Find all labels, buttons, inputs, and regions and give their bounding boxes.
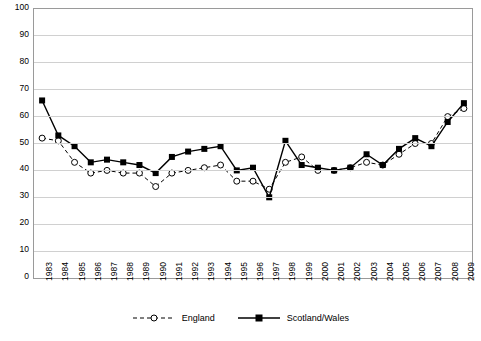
y-axis-tick-label: 30 [1,191,29,200]
x-axis-tick-label: 1995 [240,262,249,281]
y-axis-tick-label: 40 [1,164,29,173]
data-point-marker [364,151,370,157]
data-point-marker [55,132,61,138]
data-point-marker [136,170,142,176]
data-point-marker [201,146,207,152]
gridline [34,89,472,90]
y-axis-tick-label: 20 [1,218,29,227]
data-point-marker [120,159,126,165]
data-point-marker [250,178,256,184]
x-axis-tick-label: 2005 [402,262,411,281]
x-axis-tick-label: 1989 [142,262,151,281]
data-point-marker [39,97,45,103]
y-axis-tick-label: 80 [1,57,29,66]
x-axis-tick-label: 2002 [353,262,362,281]
data-point-marker [396,151,402,157]
x-axis-tick-label: 1996 [256,262,265,281]
plot-area [33,8,473,279]
x-axis-tick-label: 2009 [467,262,476,281]
x-axis-tick-label: 2000 [321,262,330,281]
x-axis-tick-label: 1992 [191,262,200,281]
y-axis-tick-label: 100 [1,3,29,12]
y-axis-tick-label: 50 [1,138,29,147]
x-axis-tick-label: 1987 [110,262,119,281]
data-point-marker [104,157,110,163]
x-axis-tick-label: 1997 [272,262,281,281]
x-axis-tick-label: 1991 [175,262,184,281]
x-axis-tick-label: 2007 [434,262,443,281]
data-point-marker [39,135,45,141]
gridline [34,224,472,225]
legend-label-england: England [182,313,215,323]
y-axis-tick-label: 60 [1,111,29,120]
x-axis-tick-label: 2004 [386,262,395,281]
y-axis-tick-label: 90 [1,30,29,39]
x-axis-tick-label: 1986 [94,262,103,281]
chart-legend: England Scotland/Wales [0,312,481,323]
data-point-marker [88,170,94,176]
data-point-marker [412,135,418,141]
data-point-marker [88,159,94,165]
data-point-marker [428,143,434,149]
legend-entry-scotland-wales: Scotland/Wales [237,312,349,323]
legend-entry-england: England [132,312,215,323]
legend-sample-england [132,313,176,323]
data-point-marker [72,143,78,149]
data-point-marker [153,184,159,190]
data-point-marker [396,146,402,152]
data-point-marker [364,159,370,165]
x-axis-tick-label: 2006 [418,262,427,281]
legend-sample-scotland-wales [237,313,281,323]
data-point-marker [120,170,126,176]
x-axis-tick-label: 2003 [370,262,379,281]
chart-container: 0102030405060708090100 19831984198519861… [0,0,481,341]
data-point-marker [169,170,175,176]
x-axis-tick-label: 2001 [337,262,346,281]
gridline [34,62,472,63]
gridline [34,116,472,117]
gridline [34,35,472,36]
x-axis-tick-label: 2008 [451,262,460,281]
data-point-marker [153,170,159,176]
x-axis-tick-label: 1993 [207,262,216,281]
data-point-marker [445,119,451,125]
x-axis-tick-label: 1985 [78,262,87,281]
data-point-marker [380,162,386,168]
x-axis-tick-label: 1994 [224,262,233,281]
x-axis-tick-label: 1983 [45,262,54,281]
data-point-marker [72,159,78,165]
y-axis-tick-label: 70 [1,84,29,93]
gridline [34,251,472,252]
data-point-marker [282,159,288,165]
y-axis-tick-label: 10 [1,245,29,254]
data-point-marker [299,162,305,168]
x-axis-tick-label: 1999 [305,262,314,281]
data-point-marker [299,154,305,160]
gridline [34,197,472,198]
x-axis-tick-label: 1988 [126,262,135,281]
data-point-marker [185,149,191,155]
data-point-marker [218,143,224,149]
x-axis-tick-label: 1984 [61,262,70,281]
gridline [34,170,472,171]
data-point-marker [218,162,224,168]
y-axis-tick-label: 0 [1,272,29,281]
data-point-marker [234,178,240,184]
data-point-marker [136,162,142,168]
gridline [34,143,472,144]
data-point-marker [461,100,467,106]
x-axis-tick-label: 1998 [288,262,297,281]
data-point-marker [169,154,175,160]
x-axis-tick-label: 1990 [159,262,168,281]
legend-label-scotland-wales: Scotland/Wales [287,313,349,323]
